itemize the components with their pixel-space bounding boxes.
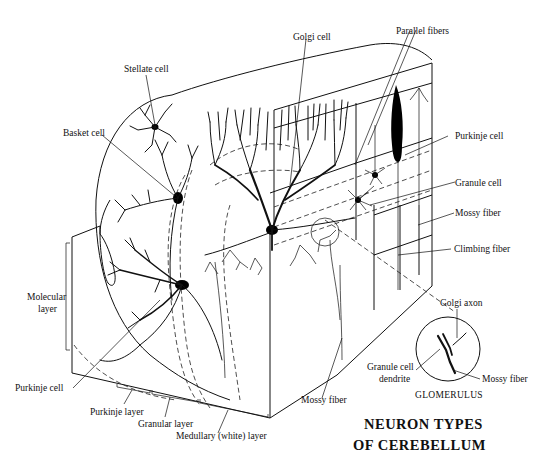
label-molecular-layer-2: layer [38, 304, 58, 314]
label-granular-layer: Granular layer [138, 419, 194, 429]
title-line-1: NEURON TYPES [364, 416, 483, 432]
label-mossy-fiber-bottom: Mossy fiber [301, 395, 347, 405]
purkinje-cell-sagittal [391, 85, 428, 290]
label-medullary-layer: Medullary (white) layer [176, 431, 268, 442]
purkinje-cell-central [205, 100, 355, 255]
label-glomerulus-mossy-fiber: Mossy fiber [482, 374, 528, 384]
label-purkinje-cell-right: Purkinje cell [455, 131, 504, 141]
labels: Stellate cell Basket cell Golgi cell Par… [15, 26, 511, 442]
label-granule-dendrite-2: dendrite [379, 374, 410, 384]
label-mossy-fiber-right: Mossy fiber [455, 208, 501, 218]
purkinje-cell-left [100, 238, 222, 361]
label-parallel-fibers: Parallel fibers [396, 26, 449, 36]
title-line-2: OF CEREBELLUM [353, 437, 486, 453]
glomerulus-marker [311, 218, 339, 246]
glomerulus-title: GLOMERULUS [415, 390, 483, 400]
label-climbing-fiber: Climbing fiber [454, 244, 511, 254]
glomerulus-inset [416, 317, 480, 381]
label-stellate-cell: Stellate cell [124, 64, 169, 74]
figure-title: NEURON TYPES OF CEREBELLUM [353, 416, 486, 453]
label-granule-cell: Granule cell [455, 178, 502, 188]
label-purkinje-cell-left: Purkinje cell [15, 383, 64, 393]
stellate-cell [130, 104, 176, 152]
label-purkinje-layer: Purkinje layer [90, 407, 144, 417]
label-golgi-axon: Golgi axon [440, 298, 483, 308]
label-basket-cell: Basket cell [63, 128, 105, 138]
label-molecular-layer-1: Molecular [27, 292, 67, 302]
glomerulus-labels: Golgi axon Granule cell dendrite Mossy f… [367, 298, 528, 400]
golgi-cell [348, 125, 385, 210]
label-golgi-cell: Golgi cell [293, 32, 331, 42]
label-granule-dendrite-1: Granule cell [367, 362, 414, 372]
basket-cell [115, 140, 198, 300]
cerebellum-diagram: Stellate cell Basket cell Golgi cell Par… [0, 0, 548, 471]
